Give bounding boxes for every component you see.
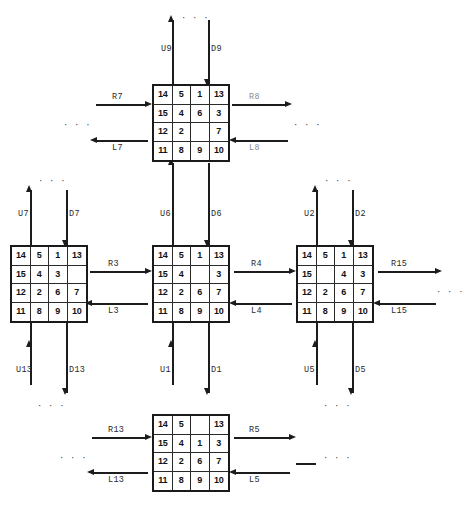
blank-cell (317, 266, 336, 285)
cell: 8 (173, 142, 192, 161)
top-state-grid[interactable]: 14 5 1 13 15 4 6 3 12 2 7 11 8 9 10 (152, 84, 230, 162)
arrowhead-right-r8 (285, 101, 292, 107)
arrowhead-right-r7 (145, 101, 152, 107)
edge-line-bottom-right-stub (296, 463, 316, 465)
edge-label-r13: R13 (108, 425, 124, 435)
continuation-dots-top-right: · · · (294, 119, 322, 130)
cell: 1 (49, 247, 68, 266)
edge-label-u9: U9 (161, 44, 172, 54)
arrowhead-up-u2 (312, 185, 318, 192)
cell: 4 (173, 435, 192, 454)
right-state-grid[interactable]: 14 5 1 13 15 4 3 12 2 6 7 11 8 9 10 (296, 245, 374, 323)
edge-line-d9 (208, 20, 210, 84)
arrowhead-left-l15 (373, 300, 380, 306)
cell: 13 (354, 247, 373, 266)
cell: 14 (298, 247, 317, 266)
cell: 6 (191, 284, 210, 303)
edge-label-d6: D6 (211, 209, 222, 219)
edge-label-d5: D5 (355, 365, 366, 375)
continuation-dots-right-top: · · · (325, 175, 353, 186)
blank-cell (68, 266, 87, 285)
cell: 12 (154, 123, 173, 142)
cell: 5 (31, 247, 50, 266)
cell: 11 (154, 472, 173, 491)
edge-label-u13: U13 (16, 365, 32, 375)
cell: 13 (210, 86, 229, 105)
edge-line-r3 (90, 271, 146, 273)
cell: 11 (298, 303, 317, 322)
edge-label-l4: L4 (251, 306, 262, 316)
cell: 5 (173, 416, 192, 435)
cell: 1 (191, 435, 210, 454)
cell: 3 (354, 266, 373, 285)
cell: 8 (173, 472, 192, 491)
edge-label-d2: D2 (355, 209, 366, 219)
arrowhead-right-r3 (145, 268, 152, 274)
edge-label-r7: R7 (112, 92, 123, 102)
arrowhead-up-u7 (26, 185, 32, 192)
edge-label-d7: D7 (69, 209, 80, 219)
edge-line-r5 (234, 437, 290, 439)
cell: 10 (68, 303, 87, 322)
edge-label-l13: L13 (108, 475, 124, 485)
cell: 12 (154, 453, 173, 472)
continuation-dots-right-bottom: · · · (324, 400, 352, 411)
edge-label-r4: R4 (251, 259, 262, 269)
cell: 2 (173, 123, 192, 142)
cell: 9 (191, 303, 210, 322)
edge-label-l5: L5 (249, 475, 260, 485)
edge-line-l5 (234, 472, 290, 474)
cell: 13 (210, 247, 229, 266)
cell: 6 (191, 105, 210, 124)
cell: 7 (210, 123, 229, 142)
arrowhead-left-l13 (87, 469, 94, 475)
cell: 15 (154, 435, 173, 454)
edge-label-l7: L7 (112, 143, 123, 153)
edge-label-u2: U2 (304, 209, 315, 219)
edge-label-l8: L8 (249, 143, 260, 153)
arrowhead-right-r13 (145, 434, 152, 440)
edge-label-u5: U5 (304, 365, 315, 375)
cell: 15 (154, 266, 173, 285)
edge-line-u9 (172, 20, 174, 84)
cell: 4 (31, 266, 50, 285)
arrowhead-right-r5 (289, 434, 296, 440)
center-state-grid[interactable]: 14 5 1 13 15 4 3 12 2 6 7 11 8 9 10 (152, 245, 230, 323)
cell: 10 (210, 303, 229, 322)
continuation-dots-bottom-left: · · · (60, 452, 88, 463)
cell: 12 (12, 284, 31, 303)
edge-line-l4 (234, 303, 292, 305)
cell: 1 (191, 247, 210, 266)
cell: 9 (191, 472, 210, 491)
edge-label-u6: U6 (160, 209, 171, 219)
arrowhead-left-l5 (229, 469, 236, 475)
edge-line-l7 (96, 140, 148, 142)
edge-label-l15: L15 (391, 306, 407, 316)
cell: 14 (154, 416, 173, 435)
cell: 7 (354, 284, 373, 303)
edge-line-r13 (92, 437, 146, 439)
edge-label-r15: R15 (391, 259, 407, 269)
cell: 5 (317, 247, 336, 266)
cell: 3 (49, 266, 68, 285)
cell: 13 (210, 416, 229, 435)
cell: 1 (335, 247, 354, 266)
cell: 14 (12, 247, 31, 266)
edge-line-r4 (234, 271, 290, 273)
arrowhead-left-l7 (90, 137, 97, 143)
bottom-state-grid[interactable]: 14 5 13 15 4 1 3 12 2 6 7 11 8 9 10 (152, 414, 230, 492)
cell: 3 (210, 266, 229, 285)
edge-label-r5: R5 (249, 425, 260, 435)
cell: 7 (210, 284, 229, 303)
edge-line-l13 (92, 472, 148, 474)
continuation-dots-right-far: · · · (437, 286, 465, 297)
cell: 11 (154, 142, 173, 161)
cell: 3 (210, 435, 229, 454)
cell: 12 (298, 284, 317, 303)
cell: 7 (68, 284, 87, 303)
cell: 10 (354, 303, 373, 322)
left-state-grid[interactable]: 14 5 1 13 15 4 3 12 2 6 7 11 8 9 10 (10, 245, 88, 323)
edge-label-r3: R3 (108, 259, 119, 269)
edge-label-u1: U1 (160, 365, 171, 375)
edge-line-u6 (172, 163, 174, 245)
